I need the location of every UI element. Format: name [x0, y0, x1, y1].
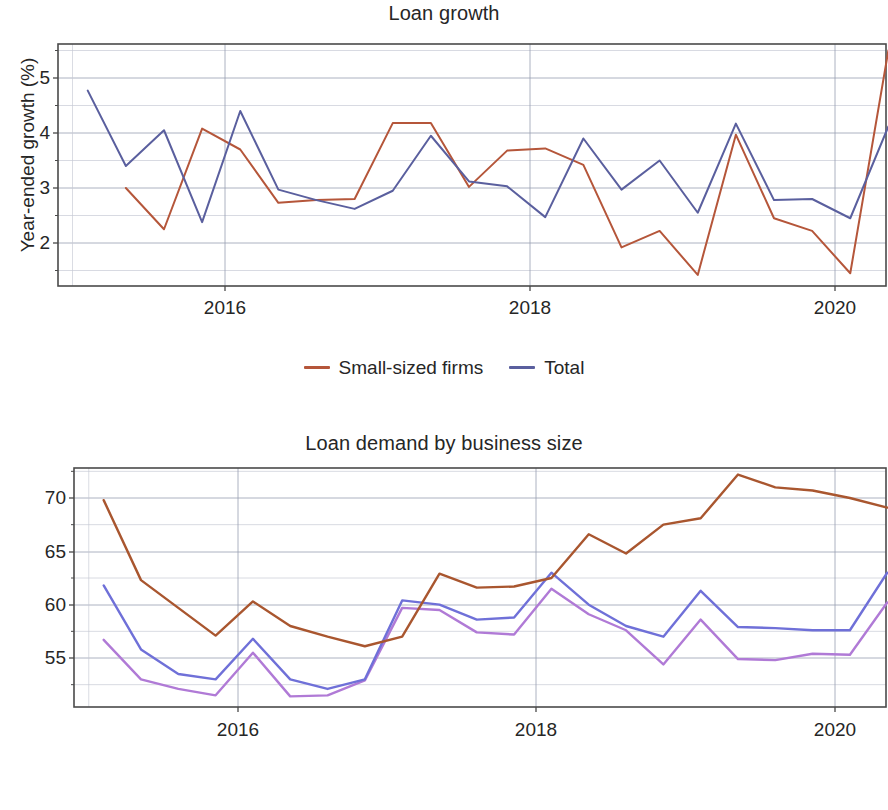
- legend-label-small-sized-firms: Small-sized firms: [339, 358, 484, 377]
- chart-page: Loan growth Year-ended growth (%) 2 3 4 …: [0, 0, 888, 810]
- loan-demand-xtick-2018: 2018: [515, 719, 557, 741]
- legend-item-small-sized-firms: Small-sized firms: [304, 358, 484, 377]
- legend-swatch-small-sized-firms: [304, 366, 330, 369]
- loan-growth-xtick-2018: 2018: [509, 297, 551, 319]
- loan-demand-figure: Loan demand by business size Index 55 60…: [0, 415, 888, 810]
- legend-label-total: Total: [544, 358, 584, 377]
- loan-growth-plot-area: [0, 0, 888, 300]
- legend-item-total: Total: [509, 358, 584, 377]
- loan-growth-figure: Loan growth Year-ended growth (%) 2 3 4 …: [0, 0, 888, 400]
- loan-demand-xtick-2016: 2016: [217, 719, 259, 741]
- legend-swatch-total: [509, 366, 535, 369]
- loan-growth-xtick-2020: 2020: [814, 297, 856, 319]
- loan-growth-xtick-2016: 2016: [204, 297, 246, 319]
- loan-growth-legend: Small-sized firms Total: [0, 358, 888, 377]
- loan-demand-xtick-2020: 2020: [814, 719, 856, 741]
- loan-demand-plot-area: [0, 415, 888, 715]
